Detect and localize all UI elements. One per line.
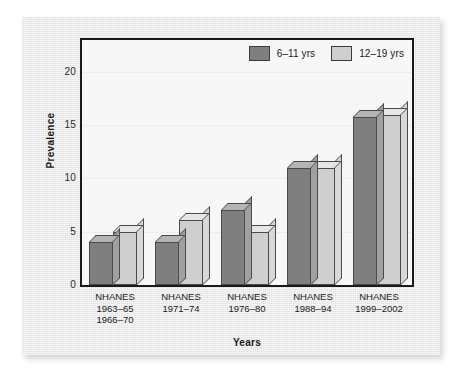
y-tick-label: 5 <box>70 227 76 237</box>
y-tick-label: 10 <box>64 173 76 183</box>
plot-area: 6–11 yrs 12–19 yrs <box>80 38 414 287</box>
x-tick-line: 1966–70 <box>74 314 156 326</box>
bar-4-series-0 <box>353 117 377 285</box>
bar-front-face <box>89 242 113 285</box>
chart-legend: 6–11 yrs 12–19 yrs <box>249 46 404 61</box>
plot-inner <box>82 40 412 285</box>
bar-front-face <box>155 242 179 285</box>
legend-label-1: 12–19 yrs <box>359 48 404 59</box>
bar-2-series-0 <box>221 210 245 285</box>
bar-side-face <box>245 196 252 285</box>
bar-side-face <box>335 154 342 285</box>
y-tick-label: 0 <box>70 280 76 290</box>
x-tick-line: 1999–2002 <box>338 303 420 315</box>
y-tick-label: 15 <box>64 120 76 130</box>
y-tick-label: 20 <box>64 67 76 77</box>
bar-0-series-0 <box>89 242 113 285</box>
legend-entry-1: 12–19 yrs <box>331 46 404 61</box>
y-axis-title: Prevalence <box>45 96 56 186</box>
bar-1-series-0 <box>155 242 179 285</box>
bar-side-face <box>401 101 408 285</box>
bars-layer <box>82 40 412 285</box>
legend-label-0: 6–11 yrs <box>277 48 315 59</box>
x-axis-tick-labels: NHANES1963–651966–70NHANES1971–74NHANES1… <box>80 291 414 339</box>
x-axis-title: Years <box>80 337 414 348</box>
chart-card: 05101520 Prevalence 6–11 yrs 12–19 yrs <box>22 17 440 355</box>
dark-gray-swatch-icon <box>249 46 270 61</box>
light-gray-swatch-icon <box>331 46 352 61</box>
figure-canvas: 05101520 Prevalence 6–11 yrs 12–19 yrs <box>0 0 467 379</box>
bar-front-face <box>221 210 245 285</box>
x-tick-label-4: NHANES1999–2002 <box>338 291 420 314</box>
x-tick-line: NHANES <box>338 291 420 303</box>
bar-side-face <box>377 103 384 285</box>
bar-3-series-0 <box>287 168 311 285</box>
bar-front-face <box>287 168 311 285</box>
bar-front-face <box>353 117 377 285</box>
bar-side-face <box>311 154 318 285</box>
legend-entry-0: 6–11 yrs <box>249 46 315 61</box>
